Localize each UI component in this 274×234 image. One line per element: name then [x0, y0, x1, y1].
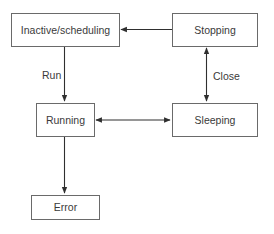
node-label: Error: [54, 201, 78, 213]
edge-inactive-to-running: Run: [42, 46, 65, 101]
edge-label-close: Close: [213, 70, 240, 82]
node-running: Running: [37, 104, 95, 137]
node-stopping: Stopping: [173, 14, 258, 47]
node-label: Sleeping: [195, 114, 236, 126]
node-label: Running: [46, 114, 85, 126]
node-error: Error: [32, 196, 100, 220]
node-sleeping: Sleeping: [173, 104, 258, 137]
edge-stopping-sleeping: Close: [207, 48, 241, 101]
state-diagram: Run Close Inactive/scheduling Stopping R…: [0, 0, 274, 234]
node-label: Stopping: [194, 24, 236, 36]
node-inactive-scheduling: Inactive/scheduling: [12, 14, 120, 47]
edge-label-run: Run: [42, 69, 61, 81]
node-label: Inactive/scheduling: [21, 24, 110, 36]
